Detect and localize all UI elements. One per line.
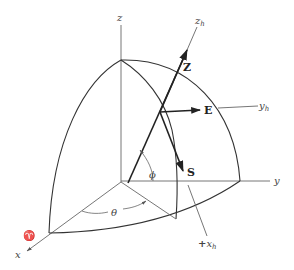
phi-label: ϕ (149, 169, 156, 180)
z-vector-arrow (160, 50, 187, 112)
theta-projection-line (121, 182, 176, 219)
z-axis-label: z (116, 12, 123, 23)
y-axis-label: y (273, 175, 280, 186)
x-axis (27, 182, 121, 251)
aries-symbol: ♈ (23, 229, 35, 242)
theta-label: θ (111, 207, 117, 218)
s-vector-arrow (160, 112, 183, 171)
zh-axis-label: zh (194, 15, 205, 28)
spherical-diagram: z zh Z E yh S ϕ y θ +xh ♈ x (0, 0, 294, 270)
meridian-through-point (121, 60, 177, 219)
x-axis-label: x (15, 249, 21, 260)
sphere-arc-xy (49, 181, 240, 233)
xh-axis-label: +xh (198, 238, 217, 251)
yh-axis-label: yh (258, 100, 269, 113)
z-vector-label: Z (183, 61, 191, 74)
s-vector-label: S (187, 166, 195, 179)
e-vector-label: E (204, 104, 212, 117)
theta-angle-arc (82, 211, 108, 213)
e-vector-arrow (160, 110, 200, 112)
theta-angle-arc-right (123, 201, 146, 209)
yh-leader-line (218, 106, 258, 108)
xh-leader-line (188, 185, 207, 236)
